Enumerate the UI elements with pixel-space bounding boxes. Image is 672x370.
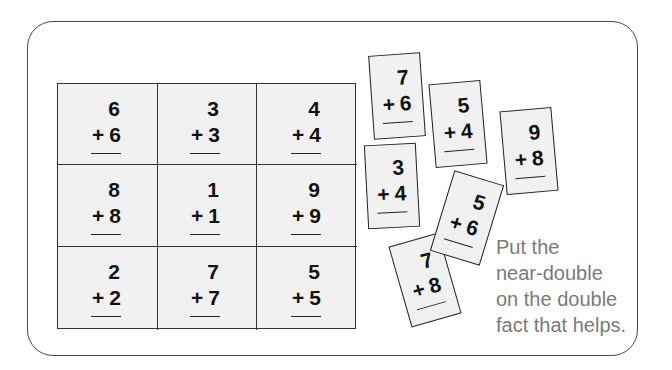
sum-line (91, 316, 121, 317)
addend-bottom: 4 (394, 181, 407, 205)
addend-top: 6 (81, 96, 121, 122)
addend-top: 5 (429, 92, 471, 121)
addend-bottom: 7 (208, 286, 220, 309)
plus-sign: + (92, 286, 104, 309)
near-double-card[interactable]: 5+4 (428, 80, 487, 168)
plus-sign: + (92, 123, 104, 146)
addend-top: 7 (369, 64, 411, 93)
instruction-line: on the double (496, 286, 626, 312)
addend-bottom: 6 (109, 123, 121, 146)
near-double-card[interactable]: 3+4 (364, 143, 420, 230)
addend-top: 3 (364, 154, 405, 182)
addend-bottom: 6 (399, 91, 412, 115)
addend-bottom: 3 (208, 123, 220, 146)
plus-sign: + (514, 147, 528, 171)
grid-cell-double[interactable]: 8+8 (58, 165, 158, 247)
grid-cell-double[interactable]: 2+2 (58, 247, 158, 330)
addend-top: 7 (180, 259, 220, 285)
grid-cell-double[interactable]: 3+3 (158, 84, 257, 165)
sum-line (291, 234, 321, 235)
sum-line (383, 121, 413, 124)
addition-fact: 9+8 (500, 119, 545, 180)
addend-bottom: 8 (531, 146, 545, 170)
addend-top: 2 (81, 259, 121, 285)
grid-cell-double[interactable]: 4+4 (257, 84, 357, 165)
addend-bottom: 5 (309, 286, 321, 309)
sum-line (377, 211, 407, 214)
sum-line (515, 176, 545, 180)
addition-fact: 5+4 (429, 92, 474, 153)
sum-line (444, 149, 474, 153)
plus-sign: + (292, 204, 304, 227)
plus-sign: + (447, 210, 465, 236)
instruction-line: near-double (496, 260, 626, 286)
plus-sign: + (382, 92, 396, 116)
sum-line (91, 153, 121, 154)
addition-fact: 8+8 (81, 177, 121, 235)
sum-line (190, 153, 220, 154)
plus-sign: + (292, 286, 304, 309)
addition-fact: 4+4 (281, 96, 321, 154)
addend-bottom: 8 (426, 272, 444, 297)
near-double-card[interactable]: 7+6 (368, 52, 426, 139)
grid-cell-double[interactable]: 1+1 (158, 165, 257, 247)
sum-line (291, 316, 321, 317)
plus-sign: + (191, 286, 203, 309)
addend-top: 3 (180, 96, 220, 122)
addend-bottom: 6 (464, 215, 482, 240)
plus-sign: + (292, 123, 304, 146)
sum-line (91, 234, 121, 235)
addend-bottom: 1 (208, 204, 220, 227)
addition-fact: 3+4 (364, 154, 407, 214)
addend-top: 1 (180, 177, 220, 203)
addend-bottom: 9 (309, 204, 321, 227)
doubles-grid: 6+6 3+3 4+4 8+8 1+1 9+9 2+2 7+7 5+5 (57, 83, 356, 329)
addend-bottom: 2 (109, 286, 121, 309)
addend-top: 5 (281, 259, 321, 285)
addend-top: 9 (500, 119, 542, 148)
grid-cell-double[interactable]: 7+7 (158, 247, 257, 330)
near-double-card[interactable]: 9+8 (499, 107, 558, 195)
addition-fact: 7+6 (369, 64, 413, 125)
plus-sign: + (443, 120, 457, 144)
plus-sign: + (191, 204, 203, 227)
addition-fact: 6+6 (81, 96, 121, 154)
addend-top: 4 (281, 96, 321, 122)
instruction-line: Put the (496, 234, 626, 260)
instruction-line: fact that helps. (496, 312, 626, 338)
plus-sign: + (191, 123, 203, 146)
plus-sign: + (377, 182, 390, 206)
addition-fact: 9+9 (281, 177, 321, 235)
addition-fact: 7+7 (180, 259, 220, 317)
addend-bottom: 4 (309, 123, 321, 146)
instruction-text: Put the near-double on the double fact t… (496, 234, 626, 338)
addend-bottom: 4 (460, 119, 474, 143)
addition-fact: 1+1 (180, 177, 220, 235)
sum-line (190, 316, 220, 317)
grid-cell-double[interactable]: 6+6 (58, 84, 158, 165)
grid-cell-double[interactable]: 9+9 (257, 165, 357, 247)
addend-top: 9 (281, 177, 321, 203)
grid-cell-double[interactable]: 5+5 (257, 247, 357, 330)
addend-bottom: 8 (109, 204, 121, 227)
sum-line (190, 234, 220, 235)
addition-fact: 5+5 (281, 259, 321, 317)
addend-top: 8 (81, 177, 121, 203)
addition-fact: 3+3 (180, 96, 220, 154)
plus-sign: + (410, 277, 428, 302)
sum-line (291, 153, 321, 154)
plus-sign: + (92, 204, 104, 227)
addition-fact: 2+2 (81, 259, 121, 317)
